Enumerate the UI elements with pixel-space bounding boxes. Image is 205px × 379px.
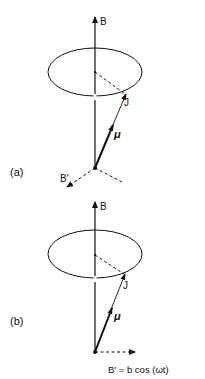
field-label-b: B [100,16,107,27]
magnetic-moment-vector-mu [95,125,113,168]
panel-label-b: (b) [10,315,23,327]
panel-a: B J μ B′ (a) [10,16,142,187]
panel-label-a: (a) [10,166,23,178]
label-j: J [123,280,128,291]
label-b-prime: B′ [60,173,69,184]
label-b-prime-equation: B′ = b cos (ωt) [108,364,169,375]
label-j: J [124,97,129,108]
label-mu: μ [113,128,121,140]
magnetic-moment-vector-mu [95,308,112,352]
perturbing-field-vector [67,168,95,187]
dashed-radius [95,72,125,94]
precession-diagram: B J μ B′ (a) B J μ B′ = b cos (ωt) (b) [0,0,205,379]
panel-b: B J μ B′ = b cos (ωt) (b) [10,201,169,375]
dashed-axis-right [95,168,124,183]
label-mu: μ [113,310,121,322]
dashed-radius [95,255,124,274]
field-label-b: B [100,201,107,212]
